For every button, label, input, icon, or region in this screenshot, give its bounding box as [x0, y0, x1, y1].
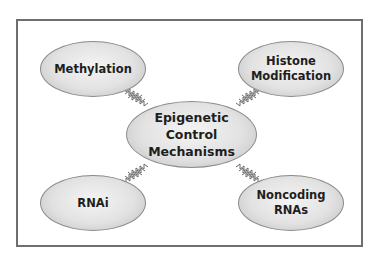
node-label-line1: Histone — [251, 54, 331, 69]
node-label: Methylation — [54, 62, 132, 77]
node-label-line2: Modification — [251, 69, 331, 84]
node-center-epigenetic-control: Epigenetic Control Mechanisms — [126, 101, 257, 168]
node-noncoding-rnas: Noncoding RNAs — [238, 175, 344, 231]
node-label-line1: Noncoding — [256, 188, 325, 203]
center-label-line2: Mechanisms — [127, 143, 256, 160]
node-methylation: Methylation — [40, 41, 146, 97]
node-histone-modification: Histone Modification — [238, 41, 344, 97]
node-rnai: RNAi — [40, 175, 146, 231]
center-label-line1: Epigenetic Control — [127, 109, 256, 143]
node-label-line2: RNAs — [256, 203, 325, 218]
node-label: RNAi — [77, 196, 108, 211]
